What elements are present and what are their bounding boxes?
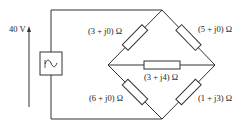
impedance-top-left: (3 + j0) Ω <box>88 26 122 36</box>
voltage-label: 40 V <box>9 24 26 34</box>
resistor-middle <box>144 61 180 69</box>
impedance-middle: (3 + j4) Ω <box>144 72 178 82</box>
resistor-bottom-left <box>122 79 147 104</box>
bridge-circuit-diagram: 40 V (3 + j0) Ω (5 + j0) Ω (3 + j4) Ω (6… <box>0 0 246 129</box>
resistor-top-left <box>122 25 147 51</box>
impedance-top-right: (5 + j0) Ω <box>198 24 232 34</box>
impedance-bottom-left: (6 + j0) Ω <box>89 93 123 103</box>
impedance-bottom-right: (1 + j3) Ω <box>198 93 232 103</box>
